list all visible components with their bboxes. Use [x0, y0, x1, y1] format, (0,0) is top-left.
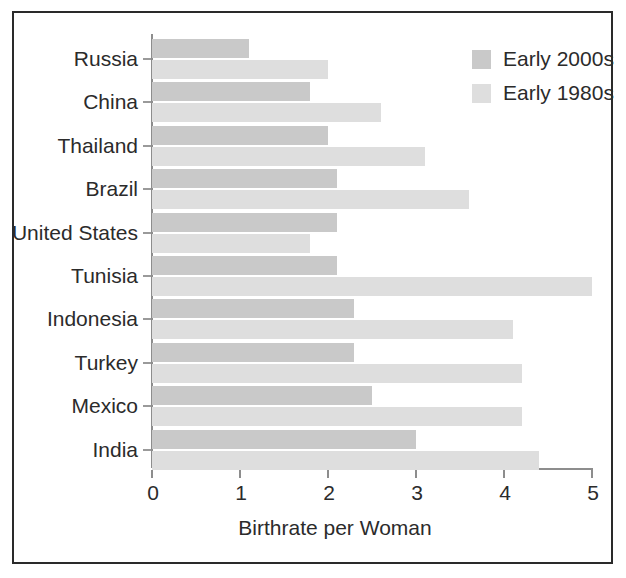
x-tick-label-2: 2 — [309, 481, 349, 505]
legend-label: Early 2000s — [503, 44, 614, 74]
bar-china-series-0 — [152, 82, 310, 101]
bar-tunisia-series-1 — [152, 277, 592, 296]
x-tick-mark-4 — [503, 470, 505, 478]
chart-figure: RussiaChinaThailandBrazilUnited StatesTu… — [0, 0, 626, 578]
bar-thailand-series-1 — [152, 147, 425, 166]
category-label-mexico: Mexico — [0, 394, 152, 418]
bar-united-states-series-1 — [152, 234, 310, 253]
bar-tunisia-series-0 — [152, 256, 337, 275]
bar-mexico-series-0 — [152, 386, 372, 405]
x-tick-mark-5 — [591, 470, 593, 478]
legend-entry-early-1980s: Early 1980s — [472, 78, 612, 112]
bar-mexico-series-1 — [152, 407, 522, 426]
bar-united-states-series-0 — [152, 213, 337, 232]
x-tick-label-3: 3 — [397, 481, 437, 505]
category-label-tunisia: Tunisia — [0, 264, 152, 288]
x-tick-mark-2 — [327, 470, 329, 478]
x-tick-label-4: 4 — [485, 481, 525, 505]
x-axis-title-text: Birthrate per Woman — [238, 516, 431, 539]
chart-legend: Early 2000sEarly 1980s — [472, 44, 612, 112]
bar-thailand-series-0 — [152, 126, 328, 145]
bar-indonesia-series-1 — [152, 320, 513, 339]
bar-brazil-series-1 — [152, 190, 469, 209]
x-axis-title: Birthrate per Woman — [0, 516, 626, 540]
x-tick-mark-1 — [239, 470, 241, 478]
category-label-thailand: Thailand — [0, 134, 152, 158]
legend-entry-early-2000s: Early 2000s — [472, 44, 612, 78]
bar-turkey-series-0 — [152, 343, 354, 362]
category-label-russia: Russia — [0, 47, 152, 71]
category-label-indonesia: Indonesia — [0, 307, 152, 331]
x-tick-mark-0 — [151, 470, 153, 478]
category-label-turkey: Turkey — [0, 351, 152, 375]
bar-turkey-series-1 — [152, 364, 522, 383]
bar-india-series-0 — [152, 430, 416, 449]
bar-russia-series-0 — [152, 39, 249, 58]
bar-russia-series-1 — [152, 60, 328, 79]
legend-label: Early 1980s — [503, 78, 614, 108]
legend-swatch-icon — [472, 50, 491, 69]
category-label-united-states: United States — [0, 221, 152, 245]
legend-swatch-icon — [472, 84, 491, 103]
category-label-brazil: Brazil — [0, 177, 152, 201]
bar-brazil-series-0 — [152, 169, 337, 188]
category-label-india: India — [0, 438, 152, 462]
x-tick-label-5: 5 — [573, 481, 613, 505]
bar-indonesia-series-0 — [152, 299, 354, 318]
x-tick-label-1: 1 — [221, 481, 261, 505]
x-tick-mark-3 — [415, 470, 417, 478]
x-tick-label-0: 0 — [133, 481, 173, 505]
bar-india-series-1 — [152, 451, 539, 470]
bar-china-series-1 — [152, 103, 381, 122]
category-label-china: China — [0, 90, 152, 114]
